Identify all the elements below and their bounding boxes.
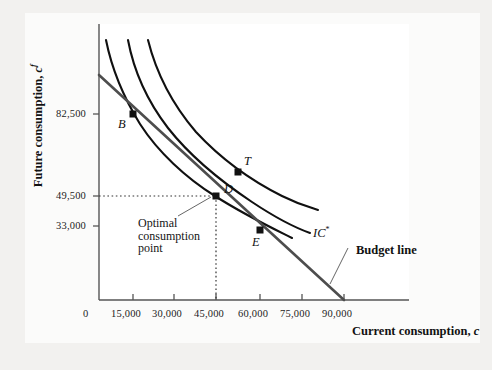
y-axis-title-text: Future consumption, xyxy=(31,72,45,187)
figure-page: Future consumption, cf 82,500 49,500 33,… xyxy=(0,0,492,370)
budget-line xyxy=(99,75,344,300)
y-tick-label-49500: 49,500 xyxy=(56,190,86,201)
data-point-marker-B[interactable] xyxy=(130,111,137,118)
point-label-B: B xyxy=(118,118,126,131)
leader-line-budget xyxy=(330,248,348,284)
annotation-optimal-line-3: point xyxy=(138,242,200,255)
x-tick-label-75000: 75,000 xyxy=(280,308,310,319)
annotation-optimal-consumption-point: Optimal consumption point xyxy=(138,217,200,255)
y-axis-title: Future consumption, cf xyxy=(29,41,44,211)
annotation-budget-line: Budget line xyxy=(356,244,417,257)
origin-label: 0 xyxy=(83,308,88,319)
x-tick-label-90000: 90,000 xyxy=(322,308,352,319)
x-tick-label-45000: 45,000 xyxy=(194,308,224,319)
y-axis-title-superscript: f xyxy=(28,64,38,67)
point-label-D: D xyxy=(224,183,233,196)
y-axis-title-variable: c xyxy=(31,67,45,73)
curve-label-ic-base: IC xyxy=(313,226,326,240)
x-axis-title-variable: c xyxy=(474,324,480,338)
data-point-marker-T[interactable] xyxy=(235,169,242,176)
indifference-curve-1 xyxy=(106,40,292,238)
curve-label-ic-superscript: * xyxy=(326,225,330,234)
leader-line-optimal-point xyxy=(178,197,211,216)
annotation-optimal-line-1: Optimal xyxy=(138,217,200,230)
y-tick-label-82500: 82,500 xyxy=(56,108,86,119)
x-axis-title: Current consumption, c xyxy=(352,325,479,338)
x-tick-label-60000: 60,000 xyxy=(238,308,268,319)
x-tick-label-30000: 30,000 xyxy=(152,308,182,319)
x-axis-title-text: Current consumption, xyxy=(352,324,474,338)
x-tick-label-15000: 15,000 xyxy=(111,308,141,319)
data-point-marker-E[interactable] xyxy=(257,227,264,234)
indifference-curve-ic-star xyxy=(128,40,310,233)
point-label-T: T xyxy=(244,155,251,168)
y-tick-label-33000: 33,000 xyxy=(56,220,86,231)
curve-label-ic-star: IC* xyxy=(313,226,330,240)
data-point-marker-D[interactable] xyxy=(213,193,220,200)
point-label-E: E xyxy=(252,236,260,249)
